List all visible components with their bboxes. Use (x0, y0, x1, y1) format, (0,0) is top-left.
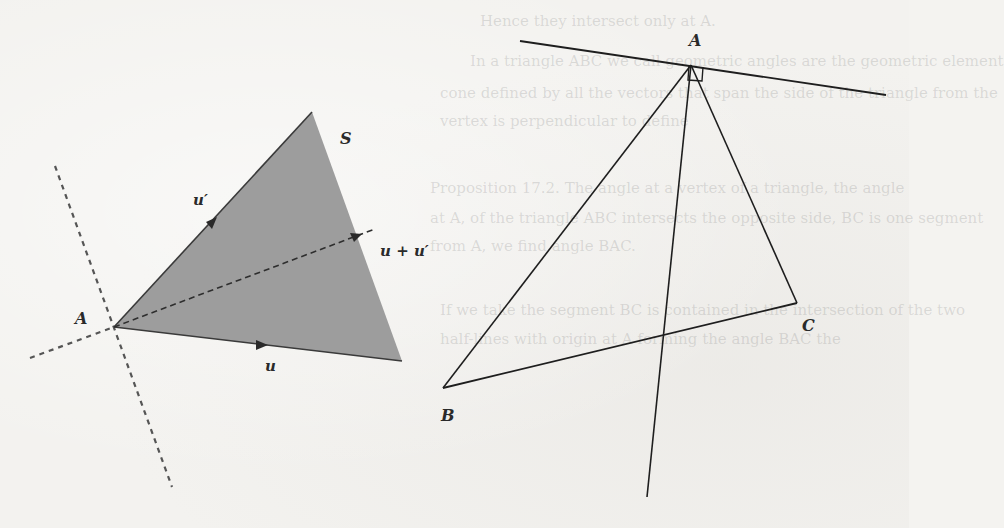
angle-bisector-line (647, 65, 691, 497)
vector-u-prime-label: u′ (193, 193, 208, 208)
left-figure-cone (30, 112, 402, 487)
region-s-label: S (340, 131, 352, 147)
vector-u-label: u (265, 359, 276, 374)
side-ac (691, 65, 797, 303)
vector-sum-label: u + u′ (380, 244, 429, 259)
side-ab (443, 65, 691, 388)
right-figure-triangle (443, 41, 886, 497)
extension-dashed-line (30, 327, 114, 358)
vertex-b-label: B (441, 408, 455, 424)
vertex-a-right-label: A (689, 33, 701, 49)
side-bc (443, 303, 797, 388)
vertex-c-label: C (802, 318, 815, 334)
vertex-a-left-label: A (75, 311, 87, 327)
